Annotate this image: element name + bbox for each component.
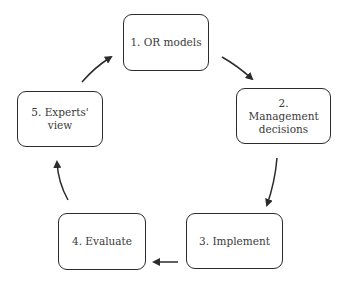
arrow-4-to-5 (57, 162, 68, 200)
node-label: 3. Implement (199, 235, 270, 248)
node-or-models: 1. OR models (123, 14, 209, 71)
node-label: 1. OR models (130, 36, 201, 49)
node-label: 4. Evaluate (72, 235, 132, 248)
node-management-decisions: 2. Management decisions (236, 88, 331, 144)
node-evaluate: 4. Evaluate (58, 213, 146, 270)
node-label: 5. Experts' view (30, 106, 90, 132)
arrow-2-to-3 (267, 158, 277, 205)
node-label: 2. Management decisions (249, 97, 319, 136)
node-implement: 3. Implement (186, 213, 283, 269)
arrow-5-to-1 (82, 57, 111, 82)
node-experts-view: 5. Experts' view (17, 91, 103, 147)
arrow-1-to-2 (222, 57, 252, 79)
